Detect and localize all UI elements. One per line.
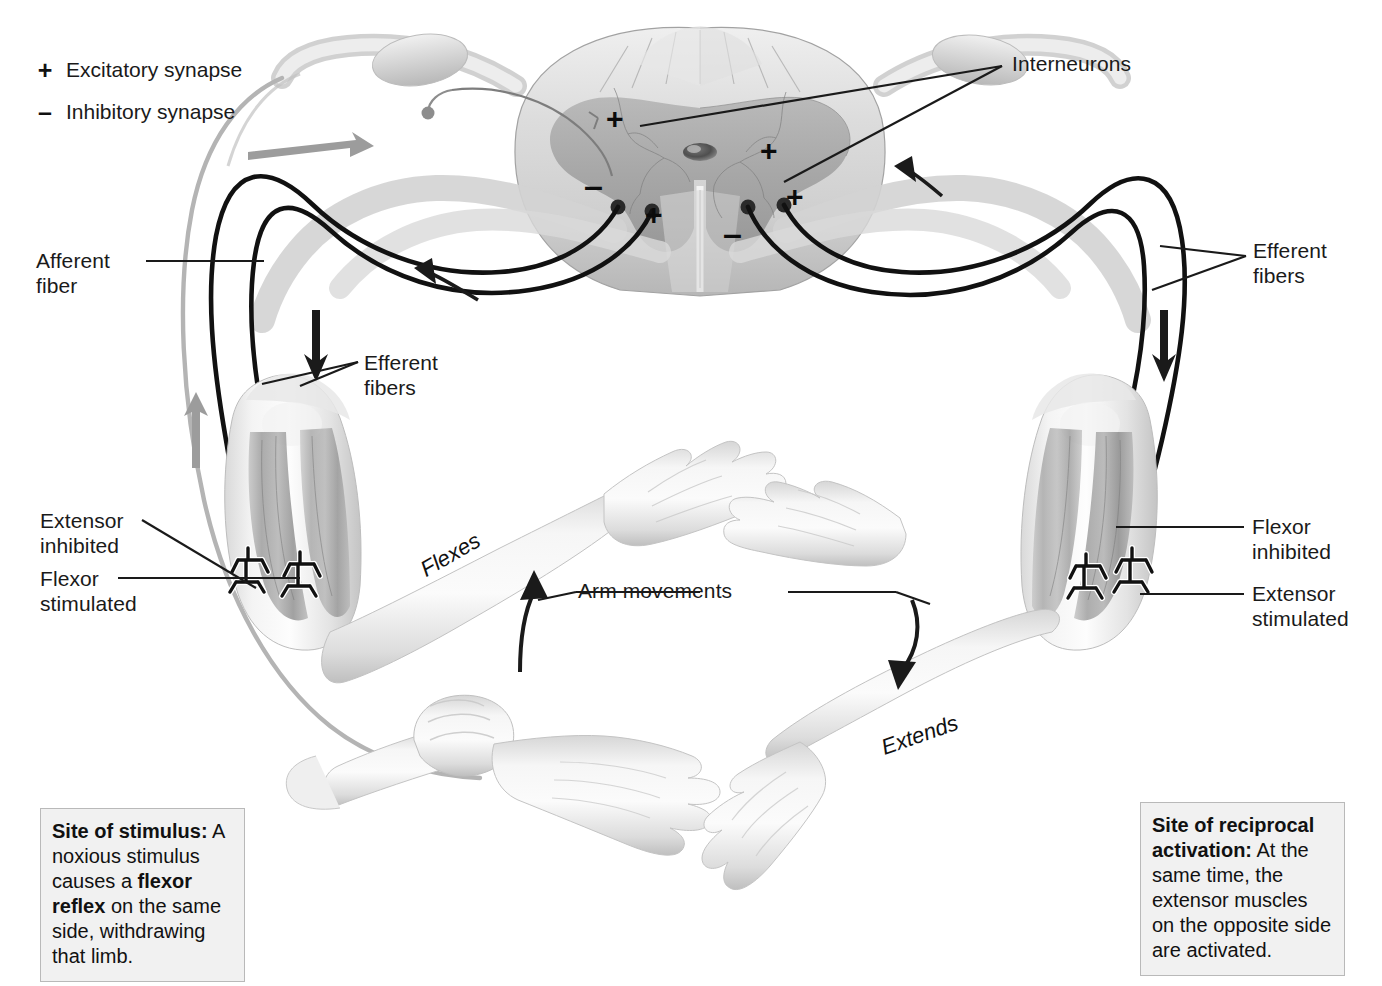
synapse-sign-right-inhibitory: – bbox=[723, 216, 742, 250]
minus-icon: – bbox=[36, 103, 54, 121]
legend-label-excitatory: Excitatory synapse bbox=[66, 58, 242, 82]
reflex-arc-figure: + Excitatory synapse – Inhibitory synaps… bbox=[0, 0, 1382, 986]
synapse-sign-right-excitatory: + bbox=[786, 182, 804, 212]
legend-item-excitatory: + Excitatory synapse bbox=[36, 58, 242, 82]
label-arm-movements: Arm movements bbox=[578, 578, 732, 603]
stimulus-arm-lower bbox=[286, 695, 720, 855]
legend-label-inhibitory: Inhibitory synapse bbox=[66, 100, 235, 124]
caption-left-heading: Site of stimulus: bbox=[52, 820, 208, 842]
clipped-title-strip bbox=[0, 0, 1382, 14]
plus-icon: + bbox=[36, 61, 54, 79]
legend-item-inhibitory: – Inhibitory synapse bbox=[36, 100, 235, 124]
label-afferent-fiber: Afferent fiber bbox=[36, 248, 110, 298]
label-extensor-inhibited: Extensor inhibited bbox=[40, 508, 124, 558]
label-efferent-fibers-left: Efferent fibers bbox=[364, 350, 438, 400]
synapse-sign-left-dorsal: + bbox=[606, 104, 624, 134]
label-flexor-inhibited: Flexor inhibited bbox=[1252, 514, 1331, 564]
label-interneurons: Interneurons bbox=[1012, 51, 1131, 76]
label-flexor-stimulated: Flexor stimulated bbox=[40, 566, 137, 616]
dorsal-root-left bbox=[282, 28, 516, 120]
label-efferent-fibers-right: Efferent fibers bbox=[1253, 238, 1327, 288]
synapse-sign-left-inhibitory: – bbox=[584, 168, 603, 202]
arm-movement-arrows bbox=[520, 592, 917, 672]
synapse-sign-right-interneuron: + bbox=[760, 136, 778, 166]
left-arm-flexed bbox=[225, 374, 786, 683]
right-arm-extended bbox=[702, 374, 1157, 890]
label-extensor-stimulated: Extensor stimulated bbox=[1252, 581, 1349, 631]
caption-site-of-reciprocal-activation: Site of reciprocal activation: At the sa… bbox=[1140, 802, 1345, 976]
caption-site-of-stimulus: Site of stimulus: A noxious stimulus cau… bbox=[40, 808, 245, 982]
synapse-sign-left-excitatory: + bbox=[645, 200, 663, 230]
